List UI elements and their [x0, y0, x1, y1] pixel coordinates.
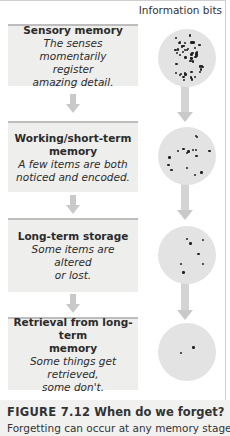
information-bit-dot	[175, 72, 177, 74]
stage-title-line: memory	[49, 145, 97, 158]
information-bit-dot	[186, 238, 188, 240]
information-bit-dot	[179, 54, 181, 56]
information-bit-dot	[199, 71, 201, 73]
information-bit-dot	[189, 34, 191, 36]
information-bit-dot	[181, 45, 183, 47]
stage-description-line: Some things get	[30, 355, 116, 368]
information-bit-dot	[175, 37, 177, 39]
down-arrow-icon	[177, 310, 193, 320]
information-bit-dot	[184, 56, 186, 58]
stage-description-line: some don't.	[42, 381, 104, 394]
down-arrow-icon	[66, 195, 80, 215]
information-bit-dot	[189, 60, 191, 62]
info-bits-circle-working	[158, 127, 216, 185]
information-bit-dot	[191, 78, 193, 80]
information-bit-dot	[192, 149, 194, 151]
info-bits-circle-sensory	[158, 29, 216, 87]
information-bit-dot	[192, 346, 194, 348]
figure-caption: FIGURE 7.12 When do we forget? Forgettin…	[0, 400, 230, 436]
information-bit-dot	[182, 271, 184, 273]
information-bit-dot	[200, 171, 202, 173]
info-bits-circle-long-term	[158, 226, 216, 284]
stage-description-line: noticed and encoded.	[16, 171, 130, 184]
information-bit-dot	[190, 71, 192, 73]
information-bit-dot	[183, 79, 185, 81]
information-bit-dot	[202, 263, 204, 265]
information-bit-dot	[180, 352, 182, 354]
information-bit-dot	[179, 41, 181, 43]
information-bit-dot	[194, 76, 196, 78]
information-bit-dot	[200, 68, 202, 70]
down-arrow-icon	[177, 210, 193, 220]
stage-description-line: retrieved,	[47, 368, 98, 381]
information-bit-dot	[177, 48, 179, 50]
information-bit-dot	[177, 150, 179, 152]
information-bit-dot	[176, 52, 178, 54]
information-bit-dot	[202, 239, 204, 241]
down-arrow-icon	[66, 94, 80, 114]
information-bit-dot	[189, 242, 191, 244]
information-bit-dot	[192, 60, 194, 62]
information-bit-dot	[194, 47, 196, 49]
stage-long-term-storage: Long-term storage Some items are altered…	[8, 218, 138, 292]
info-bits-circle-retrieval	[158, 323, 216, 381]
information-bit-dot	[186, 152, 188, 154]
stage-title-line: Working/short-term	[15, 132, 132, 145]
information-bit-dot	[195, 149, 197, 151]
information-bit-dot	[179, 74, 181, 76]
information-bit-dot	[170, 169, 172, 171]
stage-title-line: Retrieval from long-term	[12, 316, 134, 342]
information-bit-dot	[182, 148, 184, 150]
information-bit-dot	[186, 49, 188, 51]
information-bit-dot	[191, 52, 193, 54]
information-bit-dot	[182, 76, 184, 78]
caption-text: Forgetting can occur at any memory stage…	[7, 422, 230, 434]
stage-description-line: The senses momentarily	[12, 37, 134, 63]
stage-title-line: memory	[49, 342, 97, 355]
stage-description-line: Some items are altered	[12, 243, 134, 269]
information-bit-dot	[168, 156, 170, 158]
stage-description-line: or lost.	[55, 269, 91, 282]
info-flow-rail	[181, 85, 189, 115]
information-bit-dot	[196, 136, 198, 138]
information-bit-dot	[197, 253, 199, 255]
information-bit-dot	[208, 150, 210, 152]
stage-description-line: amazing detail.	[32, 76, 113, 89]
figure-title: When do we forget?	[94, 405, 224, 419]
down-arrow-icon	[66, 294, 80, 314]
stage-description-line: A few items are both	[18, 158, 128, 171]
information-bit-dot	[186, 167, 188, 169]
information-bit-dot	[184, 42, 186, 44]
stage-title: Sensory memory	[23, 24, 123, 37]
information-bit-dot	[191, 41, 193, 43]
stage-working-memory: Working/short-term memory A few items ar…	[8, 121, 138, 192]
stage-title: Long-term storage	[18, 230, 129, 243]
figure-number: FIGURE 7.12	[7, 405, 90, 419]
information-bit-dot	[184, 72, 186, 74]
information-bit-dot	[194, 174, 196, 176]
information-bit-dot	[175, 63, 177, 65]
caption-title: FIGURE 7.12 When do we forget?	[7, 405, 225, 419]
stage-retrieval: Retrieval from long-term memory Some thi…	[8, 317, 138, 390]
information-bit-dot	[180, 263, 182, 265]
information-bit-dot	[195, 155, 197, 157]
stage-sensory-memory: Sensory memory The senses momentarily re…	[8, 24, 138, 86]
information-bit-dot	[167, 164, 169, 166]
down-arrow-icon	[177, 112, 193, 122]
stage-description-line: register	[53, 63, 94, 76]
information-bits-header: Information bits	[139, 4, 222, 16]
information-bit-dot	[198, 44, 200, 46]
